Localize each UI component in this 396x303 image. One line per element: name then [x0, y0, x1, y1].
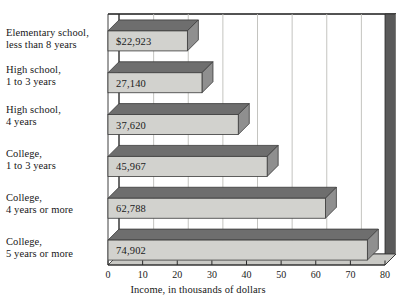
x-axis-title: Income, in thousands of dollars: [0, 284, 396, 295]
x-tick-label: 50: [276, 269, 286, 280]
x-tick-label: 80: [380, 269, 390, 280]
x-tick-label: 40: [242, 269, 252, 280]
x-tick-label: 10: [138, 269, 148, 280]
bar-value-label: 62,788: [116, 203, 146, 214]
bar-value-label: 45,967: [116, 161, 146, 172]
x-tick-label: 30: [207, 269, 217, 280]
x-tick-label: 60: [311, 269, 321, 280]
bar-value-label: 27,140: [116, 78, 146, 89]
x-tick-label: 70: [345, 269, 355, 280]
bar-value-label: 37,620: [116, 120, 146, 131]
chart-canvas: $22,92327,14037,62045,96762,78874,902010…: [0, 0, 396, 303]
bar-chart: Elementary school, less than 8 years Hig…: [0, 0, 396, 303]
bar-value-label: 74,902: [116, 245, 146, 256]
bar-value-label: $22,923: [116, 36, 152, 47]
x-tick-label: 0: [106, 269, 111, 280]
x-tick-label: 20: [172, 269, 182, 280]
